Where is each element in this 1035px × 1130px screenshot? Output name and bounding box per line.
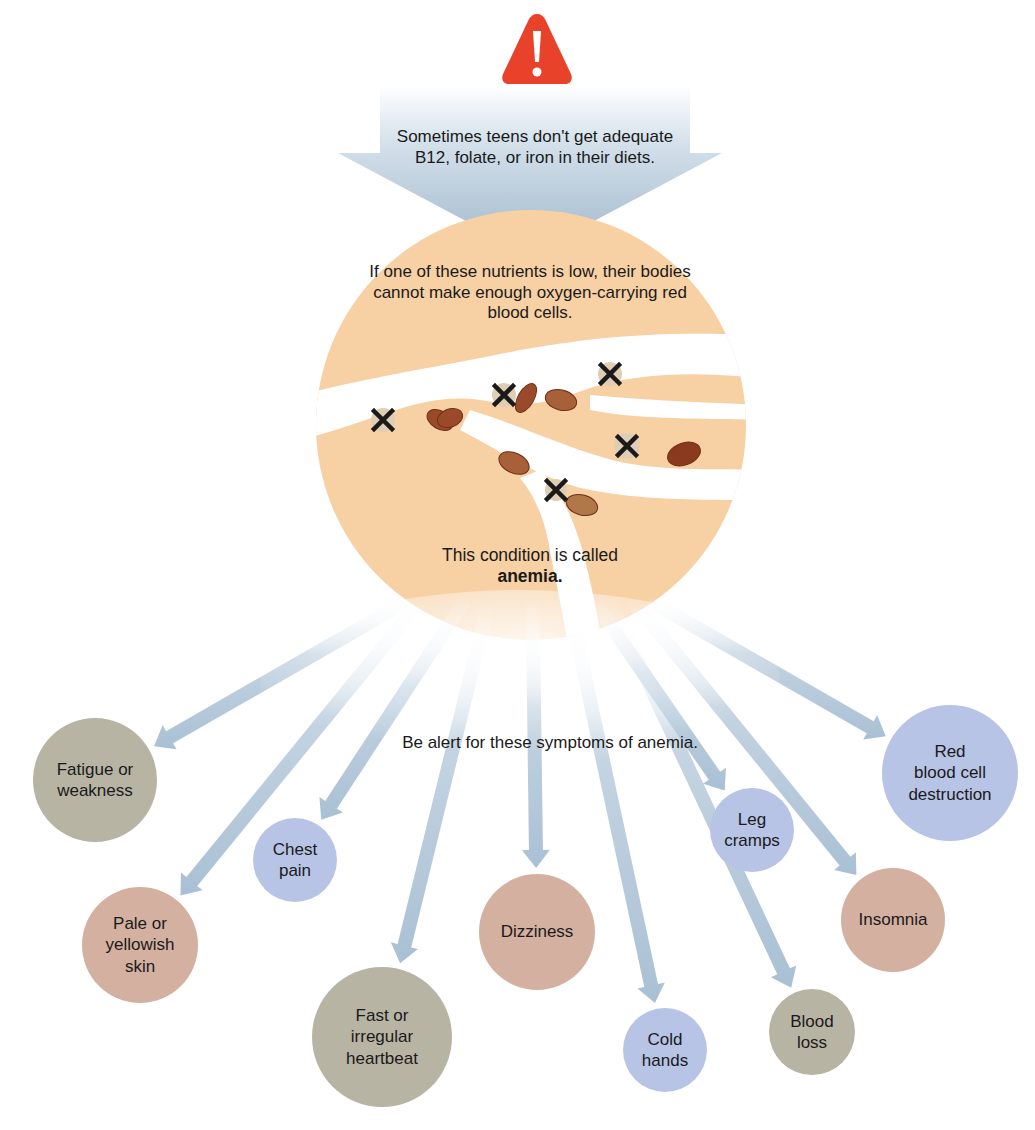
x-mark-icon xyxy=(614,433,640,459)
symptom-leg-cramps: Leg cramps xyxy=(710,788,794,872)
warning-triangle-icon xyxy=(502,14,572,84)
symptom-label: Fast or irregular heartbeat xyxy=(346,1005,418,1069)
symptom-cold-hands: Cold hands xyxy=(623,1008,707,1092)
symptom-fatigue: Fatigue or weakness xyxy=(33,718,157,842)
x-mark-icon xyxy=(492,383,516,407)
symptom-label: Leg cramps xyxy=(724,809,780,852)
symptom-pale-skin: Pale or yellowish skin xyxy=(82,887,198,1003)
symptom-chest-pain: Chest pain xyxy=(253,818,337,902)
symptom-label: Dizziness xyxy=(501,921,574,942)
symptom-label: Insomnia xyxy=(859,909,928,930)
symptom-label: Fatigue or weakness xyxy=(57,759,134,802)
anemia-diagram: Sometimes teens don't get adequate B12, … xyxy=(0,0,1035,1130)
symptom-blood-loss: Blood loss xyxy=(769,989,855,1075)
symptoms-heading: Be alert for these symptoms of anemia. xyxy=(340,733,760,754)
symptom-label: Chest pain xyxy=(273,839,317,882)
condition-prefix: This condition is called xyxy=(442,545,618,565)
symptom-label: Blood loss xyxy=(790,1011,833,1054)
explanation-text: If one of these nutrients is low, their … xyxy=(350,262,710,324)
symptom-dizziness: Dizziness xyxy=(479,874,595,990)
symptom-label: Red blood cell destruction xyxy=(908,741,991,805)
symptom-label: Pale or yellowish skin xyxy=(106,913,175,977)
symptom-insomnia: Insomnia xyxy=(841,868,945,972)
condition-text: This condition is called anemia. xyxy=(390,545,670,588)
condition-name: anemia. xyxy=(390,566,670,587)
symptom-rbc-destruction: Red blood cell destruction xyxy=(882,705,1018,841)
symptom-label: Cold hands xyxy=(642,1029,688,1072)
x-mark-icon xyxy=(545,479,567,501)
x-mark-icon xyxy=(598,362,622,386)
x-mark-icon xyxy=(371,408,395,432)
symptom-heartbeat: Fast or irregular heartbeat xyxy=(312,967,452,1107)
intro-text: Sometimes teens don't get adequate B12, … xyxy=(380,127,690,168)
